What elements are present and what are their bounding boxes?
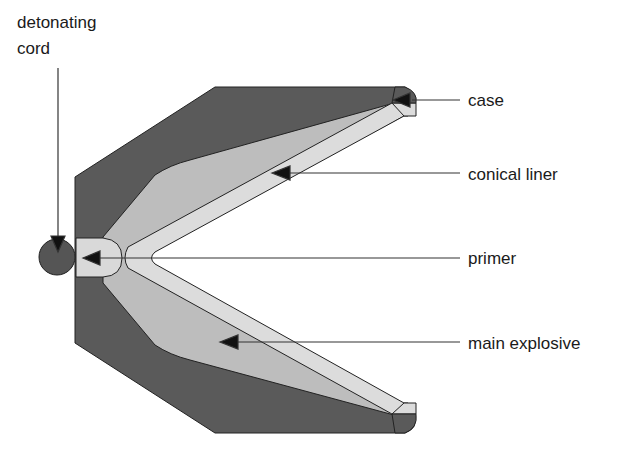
- label-main-explosive: main explosive: [468, 334, 580, 353]
- label-conical-liner: conical liner: [468, 165, 558, 184]
- label-primer: primer: [468, 249, 517, 268]
- label-case: case: [468, 91, 504, 110]
- label-detonating-cord-line2: cord: [17, 39, 50, 58]
- label-detonating-cord-line1: detonating: [17, 13, 96, 32]
- shaped-charge-diagram: detonating cord case conical liner prime…: [0, 0, 623, 455]
